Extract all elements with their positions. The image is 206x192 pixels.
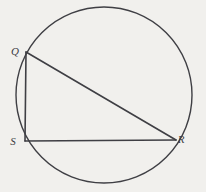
figure-canvas: Q S R <box>0 0 206 192</box>
geometry-figure: Q S R <box>0 0 206 192</box>
vertex-label-q: Q <box>11 45 19 57</box>
figure-background <box>0 0 206 192</box>
vertex-label-r: R <box>177 133 185 145</box>
segment-sr <box>25 140 176 141</box>
segment-qs <box>25 52 26 141</box>
vertex-label-s: S <box>10 135 16 147</box>
